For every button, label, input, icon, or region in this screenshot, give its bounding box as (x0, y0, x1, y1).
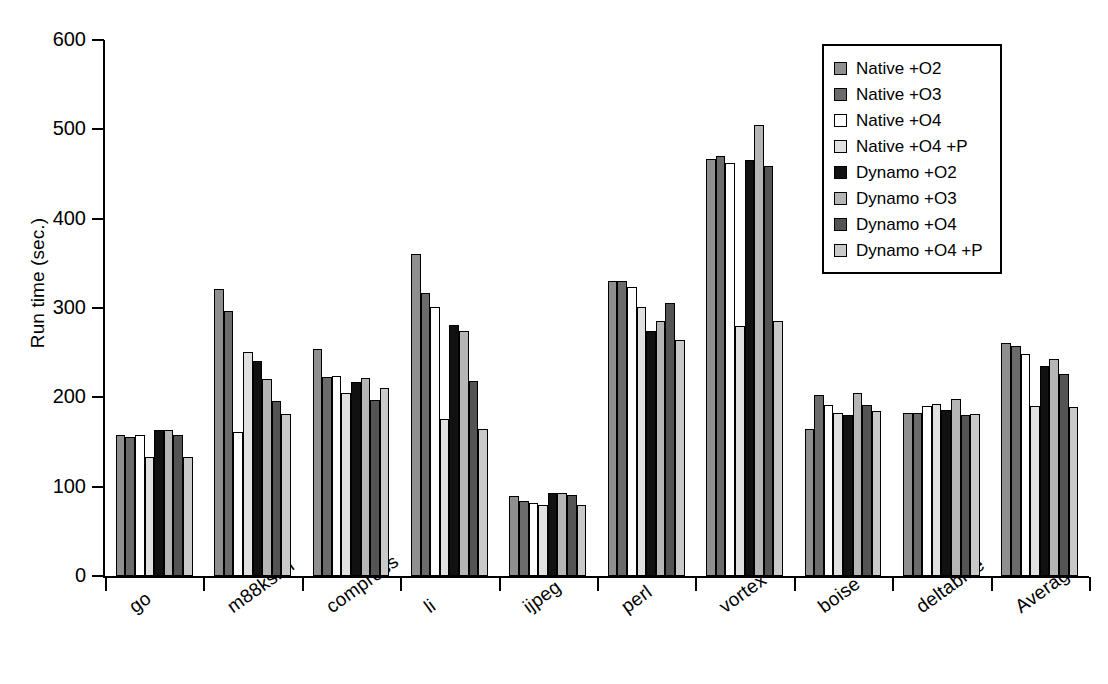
legend-item: Dynamo +O4 +P (834, 237, 992, 263)
bar (970, 414, 980, 576)
y-axis-tick (92, 128, 104, 130)
bar (164, 430, 174, 576)
bar (843, 415, 853, 576)
bar (805, 429, 815, 576)
bar (872, 411, 882, 576)
x-axis-label: boise (814, 573, 864, 618)
bar (145, 457, 155, 576)
bar (675, 340, 685, 576)
bar (1011, 346, 1021, 576)
y-axis-tick-label: 400 (16, 208, 86, 228)
y-axis-tick-label: 600 (16, 29, 86, 49)
bar (233, 432, 243, 576)
bar (173, 435, 183, 576)
bar (449, 325, 459, 576)
x-axis-tick (991, 577, 993, 591)
bar (903, 413, 913, 576)
bar (824, 405, 834, 576)
legend-swatch-icon (834, 62, 847, 75)
bar (322, 377, 332, 576)
bar (627, 287, 637, 576)
bar (745, 160, 755, 576)
y-axis-tick-label: 100 (16, 476, 86, 496)
bar (1049, 359, 1059, 576)
bar (1059, 374, 1069, 576)
legend: Native +O2Native +O3Native +O4Native +O4… (822, 44, 1002, 274)
x-axis-label: go (125, 587, 155, 617)
bar (262, 379, 272, 576)
bar (617, 281, 627, 576)
bar (183, 457, 193, 576)
bar-group (597, 40, 695, 576)
bar (421, 293, 431, 576)
legend-item: Dynamo +O3 (834, 185, 992, 211)
bar-group (499, 40, 597, 576)
bar (656, 321, 666, 576)
bar (548, 493, 558, 576)
bar (764, 166, 774, 576)
bar (116, 435, 126, 576)
bar (135, 435, 145, 576)
bar (1030, 406, 1040, 576)
bar (459, 331, 469, 576)
x-axis-label: perl (617, 581, 656, 618)
bar (469, 381, 479, 576)
legend-label: Native +O4 +P (856, 138, 968, 155)
y-axis-title: Run time (sec.) (27, 163, 49, 403)
legend-swatch-icon (834, 140, 847, 153)
bar (1001, 343, 1011, 576)
legend-item: Native +O4 +P (834, 133, 992, 159)
legend-swatch-icon (834, 166, 847, 179)
x-axis-label: ijpeg (519, 576, 565, 618)
bar (154, 430, 164, 577)
legend-swatch-icon (834, 114, 847, 127)
y-axis-tick (92, 218, 104, 220)
bar (932, 404, 942, 576)
x-axis-tick (499, 577, 501, 591)
bar (557, 493, 567, 576)
legend-label: Dynamo +O3 (856, 190, 957, 207)
bar (637, 307, 647, 576)
bar (411, 254, 421, 576)
y-axis-tick-label: 0 (16, 565, 86, 585)
y-axis-tick (92, 486, 104, 488)
bar (341, 393, 351, 576)
bar (913, 413, 923, 576)
y-axis-tick-label: 500 (16, 118, 86, 138)
bar (224, 311, 234, 576)
bar (519, 501, 529, 576)
bar (1040, 366, 1050, 576)
x-axis-tick (892, 577, 894, 591)
x-axis-tick (1089, 577, 1091, 591)
bar-group (203, 40, 301, 576)
bar (125, 437, 135, 576)
bar (567, 495, 577, 576)
y-axis-tick-label: 300 (16, 297, 86, 317)
bar-group (991, 40, 1089, 576)
legend-label: Dynamo +O2 (856, 164, 957, 181)
y-axis-tick (92, 396, 104, 398)
legend-label: Dynamo +O4 +P (856, 242, 983, 259)
x-axis-tick (794, 577, 796, 591)
legend-item: Dynamo +O4 (834, 211, 992, 237)
bar-group (695, 40, 793, 576)
x-axis-tick (203, 577, 205, 591)
legend-item: Dynamo +O2 (834, 159, 992, 185)
legend-swatch-icon (834, 244, 847, 257)
bar (853, 393, 863, 576)
bar (941, 410, 951, 576)
bar (951, 399, 961, 576)
y-axis-tick (92, 307, 104, 309)
bar-group (105, 40, 203, 576)
bar (706, 159, 716, 576)
legend-item: Native +O2 (834, 55, 992, 81)
legend-label: Dynamo +O4 (856, 216, 957, 233)
x-axis-tick (597, 577, 599, 591)
legend-label: Native +O3 (856, 86, 942, 103)
bar (833, 413, 843, 576)
bar (440, 419, 450, 576)
bar (1021, 354, 1031, 576)
bar (773, 321, 783, 576)
bar (725, 163, 735, 576)
bar (214, 289, 224, 576)
